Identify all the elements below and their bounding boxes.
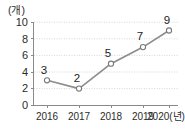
y-tick-label-2: 2 <box>22 82 28 94</box>
y-tick-label-10: 10 <box>16 16 28 28</box>
x-tick-label-2017: 2017 <box>68 111 91 122</box>
data-point-2018[interactable] <box>108 61 113 66</box>
chart-canvas: (개) 0 2 4 6 8 10 2016 2017 2018 2019 202… <box>0 0 185 130</box>
y-tick-label-8: 8 <box>22 33 28 45</box>
x-tick-label-2020: 2020(년) <box>147 111 185 122</box>
data-point-labels: 3 2 5 7 9 <box>41 14 170 84</box>
data-label-2018: 5 <box>105 47 111 59</box>
y-tick-label-6: 6 <box>22 49 28 61</box>
line-chart: (개) 0 2 4 6 8 10 2016 2017 2018 2019 202… <box>0 0 185 130</box>
data-points <box>44 28 171 91</box>
data-point-2017[interactable] <box>76 86 81 91</box>
axes <box>34 22 179 106</box>
series-line <box>47 31 169 89</box>
data-label-2020: 9 <box>164 14 170 26</box>
data-point-2020[interactable] <box>166 28 171 33</box>
data-label-2019: 7 <box>137 30 143 42</box>
x-tick-label-2016: 2016 <box>36 111 59 122</box>
y-axis-unit-label: (개) <box>8 4 25 16</box>
data-label-2016: 3 <box>41 64 47 76</box>
x-tick-label-2018: 2018 <box>100 111 123 122</box>
data-label-2017: 2 <box>74 72 80 84</box>
data-point-2019[interactable] <box>140 45 145 50</box>
data-point-2016[interactable] <box>44 78 49 83</box>
y-tick-label-4: 4 <box>22 66 28 78</box>
y-tick-label-0: 0 <box>22 99 28 111</box>
